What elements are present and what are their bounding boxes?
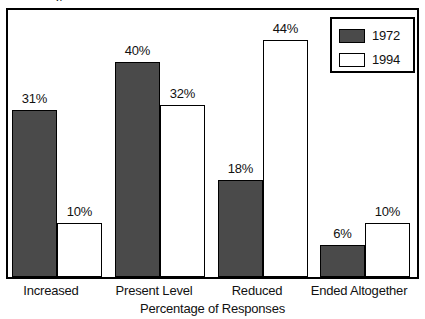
legend-label-1994: 1994 xyxy=(372,53,400,66)
bar-present-level-1994 xyxy=(160,105,205,277)
category-label-reduced: Reduced xyxy=(202,283,312,298)
bar-ended-altogether-1972 xyxy=(320,245,365,277)
bar-reduced-1972 xyxy=(218,180,263,277)
category-axis-labels: IncreasedPresent LevelReducedEnded Altog… xyxy=(6,283,419,300)
clipped-title-fragment: p xyxy=(56,0,70,1)
bar-value-label: 6% xyxy=(314,227,371,240)
category-label-present-level: Present Level xyxy=(99,283,209,298)
legend-item-1994: 1994 xyxy=(339,49,413,70)
bar-ended-altogether-1994 xyxy=(365,223,410,277)
legend-item-1972: 1972 xyxy=(339,25,413,46)
category-label-increased: Increased xyxy=(0,283,106,298)
legend-swatch-1994 xyxy=(339,53,365,67)
bar-value-label: 40% xyxy=(109,44,166,57)
bar-value-label: 18% xyxy=(212,162,269,175)
legend-label-1972: 1972 xyxy=(372,29,400,42)
x-axis-title: Percentage of Responses xyxy=(0,301,425,316)
bar-reduced-1994 xyxy=(263,40,308,277)
bar-value-label: 44% xyxy=(257,22,314,35)
category-label-ended-altogether: Ended Altogether xyxy=(304,283,414,298)
chart-legend: 1972 1994 xyxy=(330,17,415,73)
bar-chart: p 31%10%40%32%18%44%6%10% 1972 1994 Incr… xyxy=(0,0,425,319)
bar-value-label: 10% xyxy=(359,205,416,218)
bar-value-label: 31% xyxy=(6,92,63,105)
bar-value-label: 10% xyxy=(51,205,108,218)
bar-value-label: 32% xyxy=(154,87,211,100)
legend-swatch-1972 xyxy=(339,29,365,43)
bar-increased-1972 xyxy=(12,110,57,277)
bar-increased-1994 xyxy=(57,223,102,277)
